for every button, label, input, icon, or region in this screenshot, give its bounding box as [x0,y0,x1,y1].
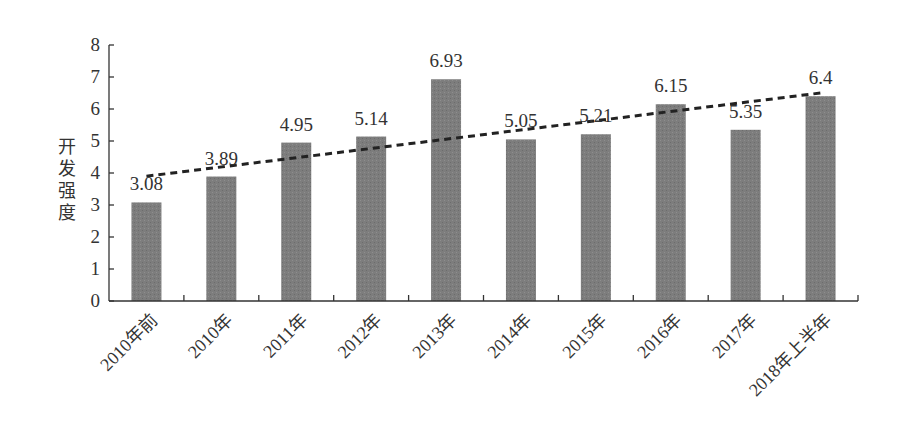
bar [506,139,536,301]
data-label: 3.89 [205,148,238,169]
y-tick-label: 4 [91,162,101,183]
category-label: 2011年 [259,310,311,362]
y-axis-ticks: 012345678 [91,34,115,311]
y-tick-label: 8 [91,34,101,55]
bar [731,130,761,301]
y-tick-label: 2 [91,226,101,247]
bar [806,96,836,301]
data-labels: 3.083.894.955.146.935.055.216.155.356.4 [130,50,833,194]
data-label: 6.4 [809,67,833,88]
bar [281,143,311,301]
bar [656,104,686,301]
category-label: 2010年前 [96,310,161,375]
y-tick-label: 1 [91,258,101,279]
trend-line [146,93,820,176]
data-label: 6.15 [654,75,687,96]
bar-chart: 012345678 3.083.894.955.146.935.055.216.… [0,0,906,432]
y-tick-label: 5 [91,130,101,151]
bar [581,134,611,301]
category-label: 2016年 [633,310,685,362]
category-label: 2013年 [409,310,461,362]
category-label: 2015年 [558,310,610,362]
category-label: 2014年 [483,310,535,362]
bar [131,202,161,301]
bar [206,177,236,301]
data-label: 5.35 [729,101,762,122]
y-tick-label: 6 [91,98,101,119]
data-label: 5.05 [504,110,537,131]
bar [356,137,386,301]
bar [431,79,461,301]
category-label: 2017年 [708,310,760,362]
y-tick-label: 7 [91,66,101,87]
category-labels: 2010年前2010年2011年2012年2013年2014年2015年2016… [96,310,835,401]
data-label: 4.95 [280,114,313,135]
y-axis-label: 开发强度 [58,136,76,223]
y-tick-label: 3 [91,194,101,215]
data-label: 6.93 [429,50,462,71]
data-label: 5.14 [355,108,389,129]
category-label: 2010年 [184,310,236,362]
category-label: 2012年 [334,310,386,362]
y-tick-label: 0 [91,290,101,311]
data-label: 5.21 [579,105,612,126]
data-label: 3.08 [130,173,163,194]
